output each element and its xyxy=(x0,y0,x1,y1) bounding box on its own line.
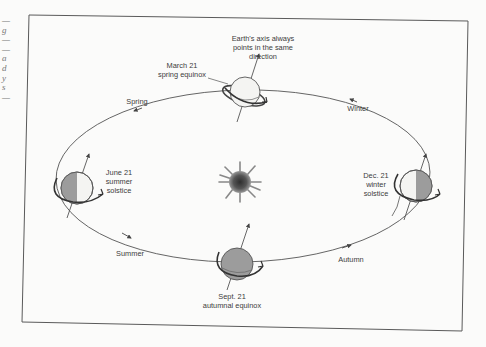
arrow-winter-icon xyxy=(350,99,357,102)
sept-date-label: Sept. 21 xyxy=(218,292,246,301)
march-leader-line xyxy=(208,78,228,84)
axis-note-line2: points in the same xyxy=(233,43,293,52)
june-date-label: June 21 xyxy=(106,168,132,177)
june-event2-label: solstice xyxy=(107,186,132,195)
sept-event-label: autumnal equinox xyxy=(203,301,262,310)
dec-date-label: Dec. 21 xyxy=(363,171,388,180)
dec-event-label: winter xyxy=(365,180,386,189)
axis-note-line1: Earth's axis always xyxy=(232,34,295,43)
march-date-label: March 21 xyxy=(167,61,198,70)
earth-dec xyxy=(392,154,440,220)
season-spring-label: Spring xyxy=(126,97,147,106)
june-event-label: summer xyxy=(106,177,133,186)
earth-march xyxy=(220,54,267,122)
arrow-winter-lower-icon xyxy=(400,122,405,127)
arrow-spring-upper-icon xyxy=(132,113,137,115)
axis-note-line3: direction xyxy=(249,52,277,61)
arrow-spring-icon xyxy=(134,108,142,111)
season-autumn-label: Autumn xyxy=(338,255,363,264)
earth-june xyxy=(54,154,103,218)
earth-sept xyxy=(217,224,263,290)
march-event-label: spring equinox xyxy=(158,70,206,79)
season-summer-label: Summer xyxy=(116,249,144,258)
orbit-diagram: Earth's axis always points in the same d… xyxy=(0,0,486,347)
sun xyxy=(219,162,261,202)
dec-event2-label: solstice xyxy=(364,189,389,198)
season-winter-label: Winter xyxy=(347,104,369,113)
arrow-summer-icon xyxy=(122,233,131,238)
